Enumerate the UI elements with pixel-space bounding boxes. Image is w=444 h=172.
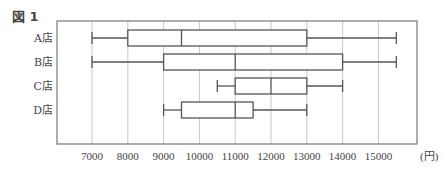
box-plot-chart: A店B店C店D店 7000800090001000011000120001300… — [0, 0, 444, 172]
x-axis-ticks: 7000800090001000011000120001300014000150… — [81, 150, 393, 162]
x-tick-label: 10000 — [186, 150, 214, 162]
iqr-box — [128, 30, 307, 46]
x-tick-label: 14000 — [329, 150, 357, 162]
x-tick-label: 9000 — [153, 150, 176, 162]
box-3 — [217, 78, 342, 94]
category-label: C店 — [34, 79, 53, 93]
x-tick-label: 12000 — [257, 150, 285, 162]
box-1 — [92, 30, 396, 46]
category-label: B店 — [34, 55, 53, 69]
category-labels: A店B店C店D店 — [33, 31, 53, 117]
boxes — [92, 30, 396, 118]
x-tick-label: 13000 — [293, 150, 321, 162]
x-tick-label: 11000 — [222, 150, 250, 162]
unit-label: (円) — [420, 150, 439, 163]
iqr-box — [182, 102, 254, 118]
category-label: D店 — [33, 103, 53, 117]
category-label: A店 — [33, 31, 53, 45]
iqr-box — [164, 54, 343, 70]
box-2 — [92, 54, 396, 70]
x-tick-label: 7000 — [81, 150, 104, 162]
x-tick-label: 15000 — [365, 150, 393, 162]
x-tick-label: 8000 — [117, 150, 140, 162]
box-4 — [164, 102, 307, 118]
